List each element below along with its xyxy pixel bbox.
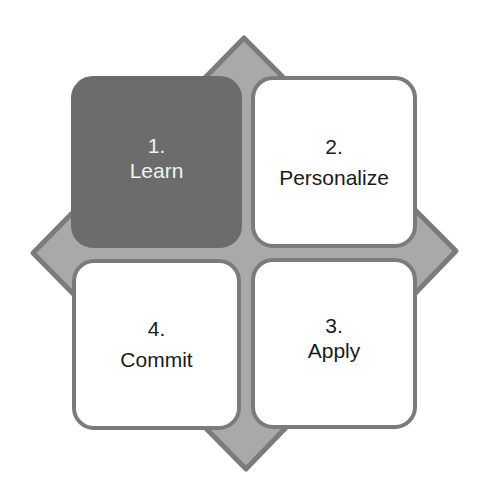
cycle-diagram: 1. Learn 2. Personalize 3. Apply 4. Comm… <box>0 0 487 500</box>
step-number: 2. <box>325 134 343 159</box>
step-label: Personalize <box>279 165 389 190</box>
diamond-background <box>0 0 487 500</box>
step-number: 3. <box>325 313 343 338</box>
step-label: Learn <box>130 158 184 183</box>
step-box-commit: 4. Commit <box>72 259 241 430</box>
step-box-apply: 3. Apply <box>251 258 417 429</box>
step-number: 1. <box>148 133 166 158</box>
step-label: Commit <box>120 347 192 372</box>
step-label: Apply <box>308 338 361 363</box>
step-number: 4. <box>148 316 166 341</box>
step-box-personalize: 2. Personalize <box>251 76 417 248</box>
step-box-learn: 1. Learn <box>71 76 242 248</box>
